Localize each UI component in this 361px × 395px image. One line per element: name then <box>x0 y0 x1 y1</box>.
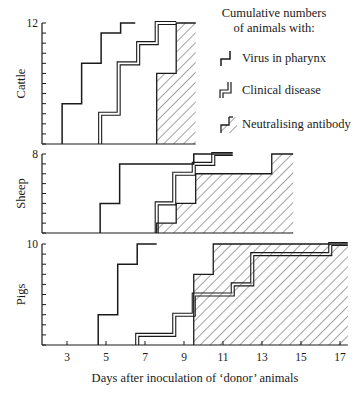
legend-title-line-2: of animals with: <box>218 21 330 36</box>
legend-label: Clinical disease <box>242 83 321 98</box>
panel-label-cattle: Cattle <box>14 68 28 98</box>
panel-sheep: 8Sheep <box>14 148 293 233</box>
panel-pigs: 10Pigs <box>14 238 348 345</box>
x-tick-label: 9 <box>181 351 187 363</box>
antibody-hatched-area <box>194 244 348 345</box>
double-step-line-icon <box>218 80 238 100</box>
y-tick-label: 10 <box>27 238 39 250</box>
panel-cattle: 12Cattle <box>14 17 196 144</box>
x-tick-label: 7 <box>142 351 148 363</box>
y-tick-label: 12 <box>27 17 39 29</box>
hatched-step-icon <box>218 114 240 134</box>
legend-label: Virus in pharynx <box>242 51 326 66</box>
x-axis-label: Days after inoculation of ‘donor’ animal… <box>92 371 299 385</box>
panel-label-sheep: Sheep <box>14 178 28 209</box>
legend-title: Cumulative numbers of animals with: <box>218 6 330 36</box>
x-tick-label: 3 <box>64 351 70 363</box>
y-tick-label: 8 <box>32 148 38 160</box>
panel-label-pigs: Pigs <box>14 284 28 306</box>
x-tick-label: 15 <box>295 351 307 363</box>
virus-step-line <box>98 244 157 345</box>
legend-title-line-1: Cumulative numbers <box>218 6 330 21</box>
single-step-line-icon <box>218 48 238 68</box>
panels-group: 12Cattle8Sheep10Pigs <box>14 17 348 345</box>
x-tick-label: 11 <box>217 351 228 363</box>
legend: Cumulative numbers of animals with: Viru… <box>218 6 361 36</box>
x-tick-label: 13 <box>256 351 268 363</box>
x-tick-label: 5 <box>103 351 109 363</box>
antibody-hatched-area <box>157 154 294 233</box>
x-tick-label: 17 <box>334 351 346 363</box>
legend-label: Neutralising antibody <box>242 117 351 132</box>
